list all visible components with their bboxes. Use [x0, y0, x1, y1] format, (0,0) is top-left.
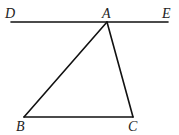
- segment-AC: [107, 22, 133, 117]
- label-C: C: [128, 119, 138, 134]
- label-B: B: [16, 119, 25, 134]
- segment-AB: [24, 22, 107, 117]
- label-E: E: [161, 6, 171, 21]
- geometry-diagram: D A E B C: [0, 0, 179, 135]
- label-D: D: [4, 6, 15, 21]
- label-A: A: [101, 6, 111, 21]
